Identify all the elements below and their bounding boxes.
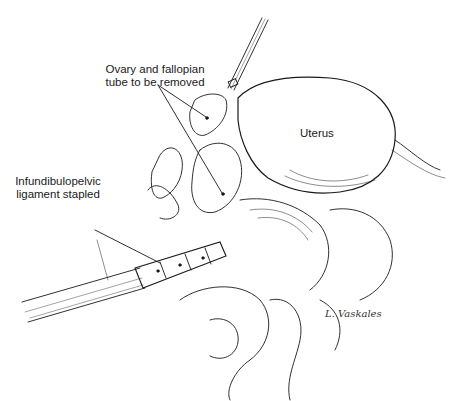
- ovary-tube-label-line2: tube to be removed: [95, 76, 215, 89]
- grasper-instrument: [228, 18, 268, 90]
- ligament-label: Infundibulopelvic ligament stapled: [12, 175, 104, 201]
- ovary-leader-2: [158, 85, 222, 193]
- ovary-outline: [192, 143, 242, 212]
- ligament-label-line1: Infundibulopelvic: [12, 175, 104, 188]
- fallopian-tube: [190, 94, 227, 135]
- ovary-tube-label-line1: Ovary and fallopian: [95, 63, 215, 76]
- stapler-instrument: [22, 242, 226, 322]
- ligament-label-line2: ligament stapled: [12, 188, 104, 201]
- ligament-leader: [95, 230, 160, 263]
- uterus-label: Uterus: [300, 127, 334, 140]
- ovary-tube-label: Ovary and fallopian tube to be removed: [95, 63, 215, 89]
- illustration: Ovary and fallopian tube to be removed U…: [0, 0, 461, 401]
- ovary-leader-1: [158, 85, 206, 117]
- artist-signature: L. Vaskales: [325, 308, 382, 319]
